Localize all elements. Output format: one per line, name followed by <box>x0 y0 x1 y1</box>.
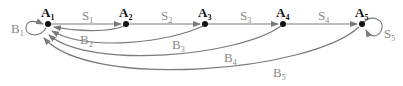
edge-label-b2: B2 <box>80 32 93 49</box>
edge-label-s2: S2 <box>161 8 172 25</box>
edge-b1-loop <box>26 21 46 34</box>
diagram-svg: A1 A2 A3 A4 A5 S1 S2 S3 S4 S5 B1 B2 B3 B… <box>0 0 403 86</box>
node-label-a2: A2 <box>119 5 132 22</box>
edge-label-b1: B1 <box>11 21 24 38</box>
edge-label-b3: B3 <box>172 37 185 54</box>
node-label-a5: A5 <box>355 5 368 22</box>
node-label-a3: A3 <box>198 5 211 22</box>
edge-label-s1: S1 <box>82 8 93 25</box>
edge-label-b5: B5 <box>273 65 286 82</box>
edge-label-s5: S5 <box>384 26 395 43</box>
node-label-a1: A1 <box>41 5 54 22</box>
edge-label-b4: B4 <box>224 50 237 67</box>
edge-b2 <box>54 26 124 31</box>
edge-label-s3: S3 <box>240 8 251 25</box>
node-label-a4: A4 <box>276 5 289 22</box>
edge-label-s4: S4 <box>318 8 329 25</box>
state-diagram: A1 A2 A3 A4 A5 S1 S2 S3 S4 S5 B1 B2 B3 B… <box>0 0 403 86</box>
